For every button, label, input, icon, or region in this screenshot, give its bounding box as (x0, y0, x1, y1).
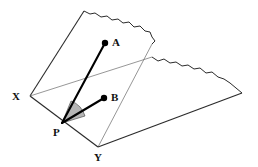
tilted-plane-edge-left (30, 11, 84, 96)
point-b-marker (101, 95, 107, 101)
label-vertex-p: P (53, 126, 60, 138)
label-point-a: A (112, 36, 120, 48)
tilted-plane (30, 11, 155, 147)
point-a-marker (102, 40, 108, 46)
figure-canvas: A B P X Y (0, 0, 258, 167)
label-vertex-x: X (12, 90, 20, 102)
label-point-b: B (111, 91, 119, 103)
horizontal-plane (30, 57, 242, 147)
horizontal-plane-edge-front (98, 93, 242, 147)
fold-line (30, 57, 152, 96)
rays-group (62, 43, 105, 123)
label-vertex-y: Y (94, 151, 102, 163)
horizontal-plane-edge-ragged (152, 57, 242, 93)
geometry-figure: A B P X Y (0, 0, 258, 167)
